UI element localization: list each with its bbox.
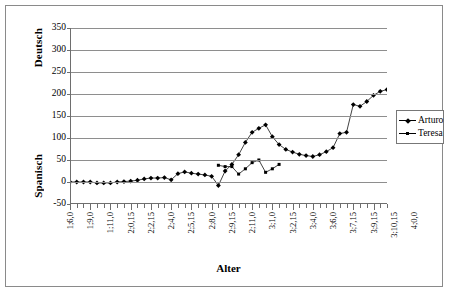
data-point-arturo	[162, 175, 167, 180]
chart-frame: Deutsch Spanisch -5005010015020025030035…	[5, 5, 443, 287]
gridline	[70, 182, 387, 183]
data-point-teresa	[271, 167, 274, 170]
x-tick-mark	[178, 204, 179, 208]
data-point-arturo	[290, 150, 295, 155]
y-tick-mark	[67, 28, 71, 29]
x-tick-mark	[286, 204, 287, 208]
x-tick-mark	[144, 204, 145, 208]
y-tick-label: 150	[52, 111, 66, 121]
x-tick-mark	[353, 204, 354, 210]
gridline	[70, 94, 387, 95]
y-tick-mark	[67, 160, 71, 161]
data-point-teresa	[230, 165, 233, 168]
y-tick-label: 0	[61, 177, 66, 187]
x-tick-mark	[117, 204, 118, 208]
x-tick-label: 3;7,15	[349, 212, 358, 234]
x-tick-mark	[266, 204, 267, 208]
data-point-teresa	[251, 161, 254, 164]
x-tick-label: 1;6,0	[66, 212, 75, 229]
y-tick-mark	[67, 72, 71, 73]
y-tick-mark	[67, 94, 71, 95]
x-tick-mark	[77, 204, 78, 208]
plot-area	[70, 28, 387, 204]
x-tick-mark	[212, 204, 213, 210]
data-point-arturo	[256, 126, 261, 131]
legend-marker-diamond-icon	[399, 116, 416, 125]
data-point-arturo	[189, 171, 194, 176]
y-tick-label: 250	[52, 67, 66, 77]
x-tick-mark	[252, 204, 253, 210]
data-point-arturo	[317, 152, 322, 157]
legend-item-arturo[interactable]: Arturo	[399, 114, 440, 127]
x-tick-label: 1;9,0	[86, 212, 95, 229]
x-tick-mark	[320, 204, 321, 208]
y-tick-mark	[67, 116, 71, 117]
data-point-teresa	[224, 165, 227, 168]
y-tick-label: 300	[52, 45, 66, 55]
gridline	[70, 28, 387, 29]
legend-marker-square-icon	[399, 129, 416, 138]
x-tick-label: 3;6,0	[329, 212, 338, 229]
y-tick-mark	[67, 138, 71, 139]
y-tick-label: -50	[53, 199, 66, 209]
data-point-arturo	[385, 87, 387, 92]
legend-label-arturo: Arturo	[418, 116, 443, 126]
x-tick-label: 2;4,0	[167, 212, 176, 229]
x-tick-mark	[198, 204, 199, 208]
x-tick-mark	[218, 204, 219, 208]
data-point-teresa	[244, 167, 247, 170]
data-point-arturo	[149, 176, 154, 181]
x-tick-mark	[293, 204, 294, 210]
data-point-arturo	[202, 173, 207, 178]
x-tick-mark	[131, 204, 132, 210]
x-tick-mark	[340, 204, 341, 208]
x-tick-mark	[83, 204, 84, 208]
x-tick-mark	[124, 204, 125, 208]
x-tick-mark	[279, 204, 280, 208]
x-tick-mark	[191, 204, 192, 210]
x-axis-ticks	[70, 204, 387, 211]
data-point-arturo	[344, 130, 349, 135]
x-tick-mark	[333, 204, 334, 210]
x-tick-mark	[347, 204, 348, 208]
legend-item-teresa[interactable]: Teresa	[399, 127, 440, 140]
data-point-arturo	[250, 130, 255, 135]
x-tick-label: 2;9,15	[228, 212, 237, 234]
data-point-arturo	[236, 152, 241, 157]
data-point-teresa	[237, 173, 240, 176]
data-point-arturo	[337, 131, 342, 136]
x-tick-mark	[245, 204, 246, 208]
x-tick-mark	[110, 204, 111, 210]
series-line-teresa	[218, 160, 279, 174]
x-tick-mark	[104, 204, 105, 208]
data-point-arturo	[142, 177, 147, 182]
x-tick-label: 2;5,15	[187, 212, 196, 234]
gridline	[70, 50, 387, 51]
x-tick-mark	[367, 204, 368, 208]
legend-label-teresa: Teresa	[418, 129, 443, 139]
x-tick-mark	[90, 204, 91, 210]
x-tick-label: 2;2,15	[147, 212, 156, 234]
gridline	[70, 138, 387, 139]
x-tick-mark	[137, 204, 138, 208]
x-tick-mark	[326, 204, 327, 208]
data-point-arturo	[297, 152, 302, 157]
x-tick-mark	[306, 204, 307, 208]
x-tick-label: 3;2,15	[289, 212, 298, 234]
data-point-teresa	[217, 164, 220, 167]
x-tick-mark	[360, 204, 361, 208]
x-tick-mark	[225, 204, 226, 208]
data-point-arturo	[243, 140, 248, 145]
x-tick-mark	[97, 204, 98, 208]
data-point-arturo	[155, 176, 160, 181]
x-tick-mark	[185, 204, 186, 208]
x-tick-mark	[171, 204, 172, 210]
data-point-arturo	[182, 169, 187, 174]
x-tick-label: 2;8,0	[208, 212, 217, 229]
x-tick-mark	[299, 204, 300, 208]
gridline	[70, 160, 387, 161]
data-point-teresa	[264, 171, 267, 174]
x-tick-label: 3;10,15	[390, 212, 399, 238]
data-point-arturo	[310, 154, 315, 159]
y-tick-label: 350	[52, 23, 66, 33]
